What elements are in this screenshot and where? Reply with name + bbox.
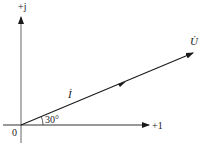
origin-label: 0: [12, 127, 17, 138]
current-label: İ: [67, 88, 73, 100]
real-axis-label: +1: [152, 120, 163, 131]
angle-label: 30°: [45, 114, 59, 125]
imag-axis-label: +j: [18, 1, 26, 12]
voltage-label: U̇: [190, 35, 199, 47]
angle-arc: [41, 117, 43, 125]
phasor-diagram: +j +1 0 30° İ U̇: [0, 0, 206, 150]
